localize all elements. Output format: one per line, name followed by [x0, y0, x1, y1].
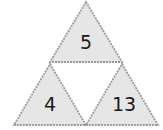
triangle-puzzle: 5 4 13	[0, 0, 163, 130]
top-triangle: 5	[50, 2, 122, 62]
bottom-right-value: 13	[112, 93, 136, 115]
top-value: 5	[80, 31, 92, 53]
bottom-left-value: 4	[44, 93, 56, 115]
